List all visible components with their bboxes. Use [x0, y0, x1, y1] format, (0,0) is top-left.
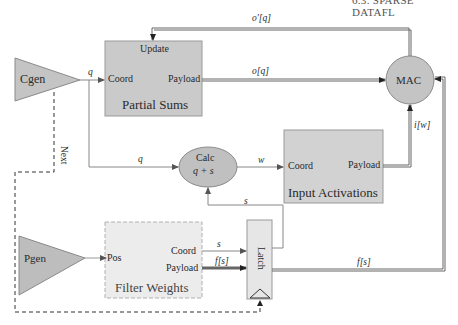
- signal-q-mid: q: [138, 155, 143, 165]
- signal-s-feedback: s: [244, 197, 248, 207]
- filter-weights-payload-port: Payload: [166, 263, 198, 273]
- signal-next: Next: [59, 146, 69, 164]
- input-activations-coord-port: Coord: [288, 161, 313, 171]
- sparse-dataflow-diagram: 6.3. SPARSE DATAFL: [0, 0, 458, 325]
- mac-label: MAC: [396, 75, 421, 86]
- calc-label: Calc: [196, 153, 214, 163]
- signal-q-top: q: [88, 68, 93, 78]
- signal-s-in: s: [217, 240, 221, 250]
- calc-expression: q + s: [193, 166, 214, 176]
- filter-weights-title: Filter Weights: [115, 281, 188, 294]
- partial-sums-payload-port: Payload: [168, 74, 200, 84]
- cgen-label: Cgen: [20, 73, 45, 85]
- signal-f-s-out: f[s]: [357, 258, 371, 268]
- pgen-label: Pgen: [24, 253, 46, 264]
- filter-weights-coord-port: Coord: [171, 246, 196, 256]
- latch-label: Latch: [256, 247, 266, 270]
- signal-f-s-in: f[s]: [215, 257, 229, 267]
- input-activations-payload-port: Payload: [348, 160, 380, 170]
- filter-weights-pos-port: Pos: [107, 253, 121, 263]
- partial-sums-update-port: Update: [140, 44, 169, 54]
- input-activations-title: Input Activations: [288, 186, 378, 199]
- pgen-triangle: [19, 236, 85, 295]
- signal-o-prime-q: o'[q]: [252, 14, 271, 24]
- signal-i-w: i[w]: [414, 121, 430, 131]
- signal-w: w: [258, 156, 264, 166]
- partial-sums-title: Partial Sums: [122, 98, 188, 111]
- signal-o-q: o[q]: [252, 67, 269, 77]
- partial-sums-coord-port: Coord: [108, 74, 133, 84]
